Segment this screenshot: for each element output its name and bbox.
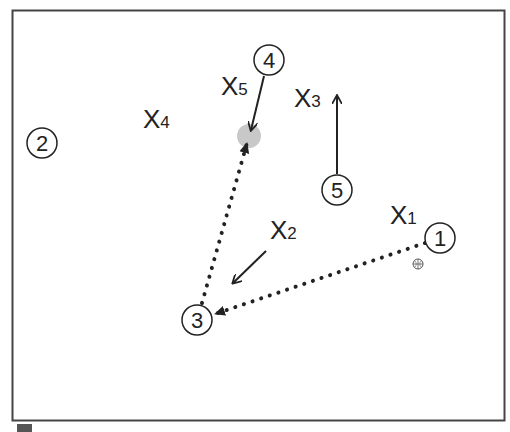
court-frame	[13, 11, 505, 421]
player-5-label: 5	[331, 178, 343, 203]
diagram-canvas: 1 2 3 4 5 X1 X2 X3 X4 X5	[0, 0, 510, 432]
player-1[interactable]: 1	[425, 223, 455, 253]
player-2[interactable]: 2	[27, 128, 57, 158]
player-2-label: 2	[36, 131, 48, 156]
legend-square	[17, 424, 32, 432]
basketball-icon	[413, 259, 423, 269]
player-1-label: 1	[434, 226, 446, 251]
player-4-label: 4	[263, 48, 275, 73]
player-5[interactable]: 5	[322, 175, 352, 205]
player-3-label: 3	[191, 308, 203, 333]
player-3[interactable]: 3	[182, 305, 212, 335]
target-spot	[237, 124, 261, 148]
player-4[interactable]: 4	[254, 45, 284, 75]
